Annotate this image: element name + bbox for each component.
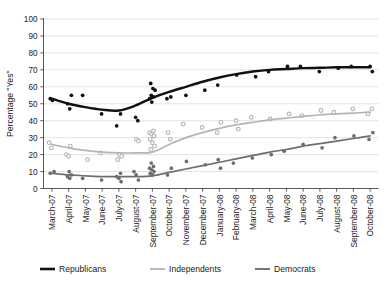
y-tick-label: 100 — [24, 15, 38, 24]
data-point — [81, 93, 85, 97]
trend-line — [52, 136, 370, 177]
data-point — [215, 131, 219, 135]
x-tick-label: September-07 — [148, 194, 158, 247]
legend-label: Independents — [169, 264, 221, 274]
series-democrats-trendline — [52, 136, 370, 177]
data-point — [168, 137, 172, 141]
data-point — [269, 153, 273, 157]
x-tick-label: June-08 — [298, 194, 308, 225]
data-point — [134, 115, 138, 119]
data-point — [351, 107, 355, 111]
data-point — [119, 171, 123, 175]
data-point — [254, 75, 258, 79]
data-point — [249, 115, 253, 119]
data-point — [68, 176, 72, 180]
x-tick-label: March-08 — [248, 194, 258, 230]
data-point — [67, 170, 71, 174]
data-point — [317, 70, 321, 74]
data-point — [320, 146, 324, 150]
data-point — [136, 119, 140, 123]
data-point — [120, 154, 124, 158]
chart-figure: 0102030405060708090100 Percentage "Yes" … — [0, 0, 390, 285]
data-point — [47, 141, 51, 145]
x-tick-label: May-07 — [81, 194, 91, 222]
data-point — [333, 136, 337, 140]
data-point — [200, 126, 204, 130]
data-point — [152, 165, 156, 169]
x-tick-label: October-08 — [365, 194, 375, 236]
data-point — [149, 161, 153, 165]
data-point — [287, 112, 291, 116]
data-point — [152, 170, 156, 174]
x-tick-label: April-07 — [64, 194, 74, 223]
x-tick-label: June-07 — [97, 194, 107, 225]
x-tick-label: December-07 — [198, 194, 208, 245]
y-tick-label: 0 — [33, 185, 38, 194]
data-point — [236, 127, 240, 131]
series-republicans-trendline — [52, 67, 370, 111]
data-point — [137, 139, 141, 143]
data-point — [49, 146, 53, 150]
series-republicans-points — [48, 65, 374, 128]
data-point — [100, 178, 104, 182]
data-point — [150, 100, 154, 104]
chart-legend: RepublicansIndependentsDemocrats — [40, 264, 316, 274]
x-tick-label: March-07 — [47, 194, 57, 230]
legend-label: Republicans — [59, 264, 106, 274]
y-axis-tick-labels: 0102030405060708090100 — [24, 15, 38, 194]
data-point — [371, 131, 375, 135]
data-point — [367, 137, 371, 141]
data-point — [234, 119, 238, 123]
data-point — [219, 166, 223, 170]
x-tick-label: July-08 — [315, 194, 325, 221]
data-point — [219, 121, 223, 125]
data-point — [216, 158, 220, 162]
x-tick-label: October-07 — [164, 194, 174, 236]
y-tick-label: 20 — [28, 151, 38, 160]
data-point — [70, 93, 74, 97]
trend-line — [52, 67, 370, 111]
data-point — [319, 109, 323, 113]
data-point — [232, 161, 236, 165]
data-point — [185, 160, 189, 164]
data-point — [181, 122, 185, 126]
y-tick-label: 40 — [28, 117, 38, 126]
data-point — [216, 83, 220, 87]
x-tick-label: August-07 — [131, 194, 141, 233]
data-point — [137, 178, 141, 182]
data-point — [100, 112, 104, 116]
data-point — [116, 158, 120, 162]
x-tick-label: July-07 — [114, 194, 124, 221]
x-tick-label: August-08 — [332, 194, 342, 233]
data-point — [370, 70, 374, 74]
data-point — [184, 93, 188, 97]
x-tick-label: January-08 — [215, 194, 225, 236]
y-tick-label: 80 — [28, 49, 38, 58]
data-point — [169, 95, 173, 99]
x-axis-tick-labels: March-07April-07May-07June-07July-07Augu… — [47, 194, 375, 247]
y-tick-label: 50 — [28, 100, 38, 109]
data-point — [149, 148, 153, 152]
data-point — [370, 107, 374, 111]
y-axis — [40, 18, 43, 189]
y-axis-title-text: Percentage "Yes" — [5, 71, 15, 137]
data-point — [169, 166, 173, 170]
data-point — [153, 144, 157, 148]
data-point — [115, 124, 119, 128]
data-point — [166, 131, 170, 135]
data-point — [250, 156, 254, 160]
data-point — [152, 134, 156, 138]
y-axis-title: Percentage "Yes" — [5, 71, 15, 137]
x-tick-label: May-08 — [282, 194, 292, 222]
y-tick-label: 60 — [28, 83, 38, 92]
x-tick-label: February-08 — [231, 194, 241, 240]
data-point — [352, 134, 356, 138]
x-tick-label: April-08 — [265, 194, 275, 223]
data-point — [119, 180, 123, 184]
data-point — [132, 170, 136, 174]
data-point — [165, 97, 169, 101]
y-tick-label: 10 — [28, 168, 38, 177]
data-point — [153, 88, 157, 92]
data-point — [149, 82, 153, 86]
y-tick-label: 70 — [28, 66, 38, 75]
